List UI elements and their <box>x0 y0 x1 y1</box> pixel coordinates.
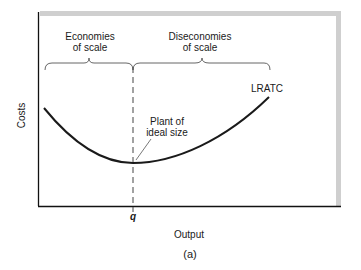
plant-label-line1: Plant of <box>137 116 197 127</box>
economies-label-line2: of scale <box>55 42 125 53</box>
diseconomies-brace <box>133 58 270 70</box>
lratc-label: LRATC <box>247 83 287 94</box>
plant-ideal-size-label: Plant of ideal size <box>137 116 197 138</box>
diseconomies-label-line2: of scale <box>155 42 245 53</box>
y-axis-label: Costs <box>16 101 27 131</box>
x-axis-label: Output <box>164 229 214 240</box>
economies-label-line1: Economies <box>55 31 125 42</box>
economies-brace <box>45 58 133 70</box>
x-tick-q: q <box>125 211 141 222</box>
plant-label-line2: ideal size <box>137 127 197 138</box>
frame-right-shade <box>336 11 341 207</box>
diseconomies-label-line1: Diseconomies <box>155 31 245 42</box>
frame-top-shade <box>40 11 340 16</box>
economies-label: Economies of scale <box>55 31 125 53</box>
diseconomies-label: Diseconomies of scale <box>155 31 245 53</box>
figure-caption: (a) <box>175 249 205 260</box>
plant-pointer-line <box>136 139 151 160</box>
